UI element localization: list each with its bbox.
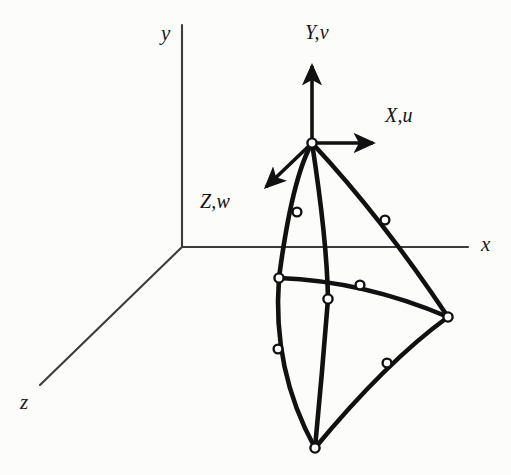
edge-left-to-bottom: [278, 278, 315, 448]
node-center: [323, 294, 332, 303]
global-axes: [40, 25, 468, 385]
global-z-axis: [40, 247, 182, 385]
edge-center-to-bottom: [315, 299, 328, 448]
local-Z-axis-arrow: [266, 143, 312, 187]
shell-element-edges: [278, 143, 448, 448]
node-mid-top-left: [293, 208, 302, 217]
global-x-axis-label: x: [481, 234, 490, 255]
node-corner-bottom: [310, 443, 319, 452]
node-mid-right: [356, 281, 365, 290]
global-z-axis-label: z: [20, 392, 28, 413]
element-nodes: [274, 138, 453, 452]
global-y-axis-label: y: [161, 23, 170, 44]
diagram-svg: [0, 0, 511, 475]
node-corner-left: [274, 273, 283, 282]
node-corner-top: [307, 138, 316, 147]
node-mid-right-lower: [383, 359, 392, 368]
node-mid-top-right: [381, 216, 390, 225]
edge-top-to-right: [312, 143, 448, 317]
node-mid-left-lower: [274, 345, 283, 354]
figure-canvas: y x z Y,v X,u Z,w: [0, 0, 511, 475]
local-axes: [266, 66, 373, 187]
local-X-axis-label: X,u: [385, 105, 413, 125]
edge-right-to-bottom: [315, 317, 448, 448]
node-corner-right: [443, 312, 452, 321]
local-Z-axis-label: Z,w: [200, 191, 230, 211]
edge-top-to-center: [312, 143, 328, 299]
local-Y-axis-label: Y,v: [305, 22, 329, 42]
